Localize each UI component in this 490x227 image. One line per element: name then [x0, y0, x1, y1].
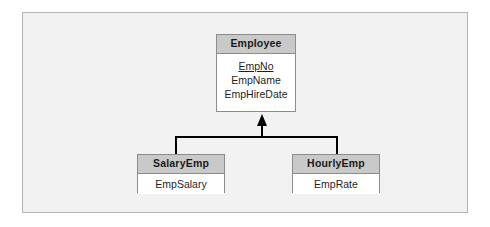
connector-branch-hourlyemp	[336, 136, 338, 155]
entity-hourlyemp-attributes: EmpRate	[293, 174, 379, 194]
entity-employee: Employee EmpNo EmpName EmpHireDate	[216, 34, 296, 112]
attribute-empsalary: EmpSalary	[140, 177, 222, 191]
connector-horizontal-bar	[175, 136, 338, 138]
entity-employee-title: Employee	[217, 35, 295, 54]
entity-hourlyemp: HourlyEmp EmpRate	[292, 154, 380, 193]
inheritance-arrow-icon	[257, 114, 267, 126]
attribute-emphiredate: EmpHireDate	[219, 87, 293, 101]
attribute-empname: EmpName	[219, 73, 293, 87]
entity-salaryemp: SalaryEmp EmpSalary	[137, 154, 225, 193]
entity-employee-attributes: EmpNo EmpName EmpHireDate	[217, 54, 295, 106]
entity-hourlyemp-title: HourlyEmp	[293, 155, 379, 174]
attribute-empno: EmpNo	[219, 59, 293, 73]
entity-salaryemp-attributes: EmpSalary	[138, 174, 224, 194]
diagram-canvas: Employee EmpNo EmpName EmpHireDate Salar…	[0, 0, 490, 227]
entity-salaryemp-title: SalaryEmp	[138, 155, 224, 174]
connector-branch-salaryemp	[175, 136, 177, 155]
attribute-emprate: EmpRate	[295, 177, 377, 191]
